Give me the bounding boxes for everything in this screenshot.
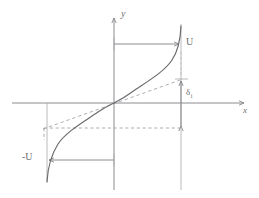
upper-saturation-label: U <box>186 37 193 47</box>
lower-saturation-label: -U <box>22 152 33 162</box>
figure-canvas <box>0 0 259 198</box>
dashed-helper-lines <box>43 52 183 140</box>
y-axis-label: y <box>121 9 125 19</box>
delta-label: δi <box>186 88 192 99</box>
x-axis-label: x <box>243 106 247 115</box>
saturation-curve-figure: U -U y x δi <box>0 0 259 198</box>
delta-subscript: i <box>190 93 192 99</box>
